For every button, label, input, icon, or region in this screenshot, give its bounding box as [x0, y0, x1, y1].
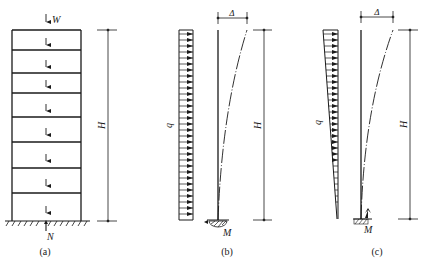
uniform-load-diagram	[179, 30, 193, 220]
caption-c: (c)	[371, 246, 382, 258]
panel-b-uniform-load: q Δ M	[163, 8, 272, 258]
fixed-support-icon-c	[353, 208, 372, 224]
deflected-shape-b	[218, 30, 247, 220]
fixed-support-icon-b	[204, 220, 229, 227]
label-m-b: M	[222, 227, 232, 238]
panel-c-triangular-load: q Δ M H (c)	[312, 7, 418, 258]
label-h-a: H	[96, 121, 107, 130]
label-h-b: H	[252, 121, 263, 130]
label-q-b: q	[163, 123, 174, 128]
label-h-c: H	[398, 120, 409, 129]
label-q-c: q	[312, 120, 323, 125]
structural-load-diagram: W N H (a) q	[0, 0, 422, 266]
label-delta-b: Δ	[228, 8, 234, 18]
label-delta-c: Δ	[373, 7, 379, 17]
uniform-load-arrow-icons	[179, 34, 193, 214]
floor-beams	[12, 30, 81, 193]
base-reaction-arrow-icon	[44, 220, 48, 231]
deflected-shape-c	[361, 30, 393, 219]
label-m-c: M	[363, 224, 373, 235]
caption-a: (a)	[39, 246, 50, 258]
caption-b: (b)	[221, 246, 233, 258]
label-n: N	[46, 231, 55, 242]
label-w: W	[52, 14, 62, 25]
panel-a-building-frame: W N H (a)	[5, 14, 117, 258]
triangular-load-diagram	[323, 30, 338, 219]
